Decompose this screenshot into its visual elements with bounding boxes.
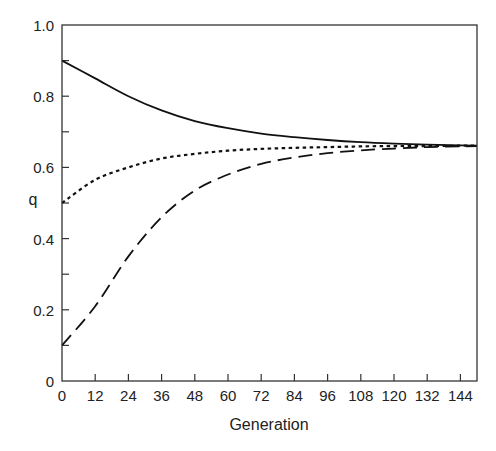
x-tick-label: 96 xyxy=(319,387,336,404)
x-tick-label: 132 xyxy=(415,387,440,404)
x-tick-label: 36 xyxy=(153,387,170,404)
x-tick-label: 0 xyxy=(58,387,66,404)
x-tick-label: 144 xyxy=(448,387,473,404)
x-tick-label: 120 xyxy=(381,387,406,404)
y-tick-label: 0.4 xyxy=(33,231,54,248)
y-axis-title: q xyxy=(29,191,38,208)
x-tick-label: 84 xyxy=(286,387,303,404)
x-tick-label: 108 xyxy=(348,387,373,404)
curve-solid xyxy=(62,61,477,146)
x-tick-label: 24 xyxy=(120,387,137,404)
y-tick-label: 1.0 xyxy=(33,17,54,34)
x-tick-label: 60 xyxy=(220,387,237,404)
curve-dashed xyxy=(62,146,477,345)
plot-curves xyxy=(62,61,477,346)
x-tick-label: 48 xyxy=(186,387,203,404)
y-tick-label: 0 xyxy=(46,373,54,390)
plot-frame xyxy=(62,25,477,381)
x-tick-labels: 01224364860728496108120132144 xyxy=(58,387,473,404)
line-chart: 01224364860728496108120132144 00.20.40.6… xyxy=(0,0,496,451)
y-tick-label: 0.6 xyxy=(33,159,54,176)
x-tick-label: 12 xyxy=(87,387,104,404)
y-tick-label: 0.8 xyxy=(33,88,54,105)
x-axis-title: Generation xyxy=(229,416,308,433)
y-tick-label: 0.2 xyxy=(33,302,54,319)
x-tick-label: 72 xyxy=(253,387,270,404)
curve-dotted xyxy=(62,146,477,203)
axis-ticks xyxy=(62,61,460,381)
